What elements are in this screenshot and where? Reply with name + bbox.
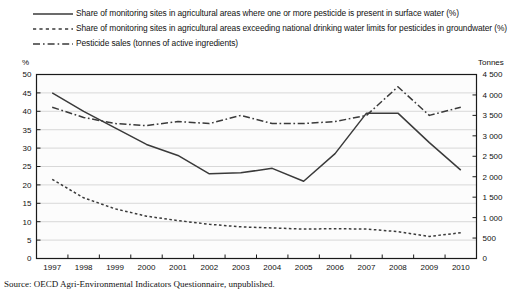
x-axis-tick-label: 2000 <box>138 263 156 272</box>
x-axis-tick-label: 2008 <box>389 263 407 272</box>
source-text: OECD Agri-Environmental Indicators Quest… <box>34 279 275 289</box>
x-axis-tick-label: 2007 <box>358 263 376 272</box>
x-axis-tick-label: 2003 <box>232 263 250 272</box>
x-axis-tick-label: 2002 <box>200 263 218 272</box>
y-axis-tick-label: 15 <box>23 199 32 208</box>
x-axis-tick-label: 1999 <box>106 263 124 272</box>
y2-axis-tick-label: 4 500 <box>483 70 504 79</box>
x-axis-tick-label: 1997 <box>43 263 61 272</box>
y2-axis-tick-label: 500 <box>483 234 497 243</box>
y-axis-tick-label: 30 <box>23 144 32 153</box>
source-note: Source: OECD Agri-Environmental Indicato… <box>4 279 275 289</box>
x-axis-tick-label: 2009 <box>420 263 438 272</box>
y2-axis-tick-label: 0 <box>483 254 488 263</box>
y2-axis-tick-label: 2 500 <box>483 152 504 161</box>
y-axis-tick-label: 45 <box>23 89 32 98</box>
pesticide-monitoring-chart: Share of monitoring sites in agricultura… <box>0 0 516 296</box>
y-axis-tick-label: 20 <box>23 181 32 190</box>
source-prefix: Source: <box>4 279 32 289</box>
y-axis-tick-label: 0 <box>27 254 32 263</box>
y-axis-tick-label: 10 <box>23 218 32 227</box>
x-axis-tick-label: 2010 <box>452 263 470 272</box>
y-axis-tick-label: 25 <box>23 162 32 171</box>
y-axis-tick-label: 40 <box>23 107 32 116</box>
x-axis-tick-label: 2004 <box>263 263 281 272</box>
y2-axis-tick-label: 2 000 <box>483 173 504 182</box>
y-axis-tick-label: 35 <box>23 126 32 135</box>
y-axis-tick-label: 5 <box>27 236 32 245</box>
x-axis-tick-label: 2005 <box>295 263 313 272</box>
y2-axis-tick-label: 3 500 <box>483 111 504 120</box>
y2-axis-tick-label: 3 000 <box>483 132 504 141</box>
x-axis-tick-label: 1998 <box>75 263 93 272</box>
x-axis-tick-label: 2001 <box>169 263 187 272</box>
y2-axis-tick-label: 1 500 <box>483 193 504 202</box>
chart-canvas: 05101520253035404550 05001 0001 5002 000… <box>0 0 516 296</box>
y-axis-tick-label: 50 <box>23 70 32 79</box>
x-axis-tick-label: 2006 <box>326 263 344 272</box>
plot-area: 05101520253035404550 05001 0001 5002 000… <box>0 0 516 296</box>
y2-axis-tick-label: 4 000 <box>483 91 504 100</box>
y2-axis-tick-label: 1 000 <box>483 214 504 223</box>
